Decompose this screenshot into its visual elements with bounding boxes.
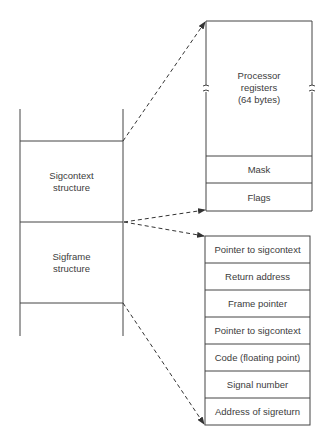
mask-cell: Mask — [206, 156, 312, 183]
processor-registers-label: Processor registers (64 bytes) — [206, 70, 312, 106]
arrow-to-sigframe-bottom — [123, 303, 204, 424]
sigframe-label: Sigframe structure — [20, 251, 123, 275]
sigframe-row-address-of-sigreturn: Address of sigreturn — [205, 398, 310, 425]
sigframe-row-pointer-to-sigcontext: Pointer to sigcontext — [205, 236, 310, 263]
sigframe-row-code: Code (floating point) — [205, 344, 310, 371]
sigframe-row-pointer-to-sigcontext-2: Pointer to sigcontext — [205, 317, 310, 344]
sigframe-row-frame-pointer: Frame pointer — [205, 290, 310, 317]
dashed-arrows — [123, 22, 205, 424]
arrow-to-sigframe-top — [124, 222, 204, 236]
arrow-to-flags-bottom — [124, 210, 205, 222]
left-stack — [20, 109, 123, 336]
flags-cell: Flags — [206, 183, 312, 211]
sigcontext-label: Sigcontext structure — [20, 170, 123, 194]
sigframe-row-return-address: Return address — [205, 263, 310, 290]
sigframe-row-signal-number: Signal number — [205, 371, 310, 398]
arrow-to-registers-top — [123, 22, 205, 141]
